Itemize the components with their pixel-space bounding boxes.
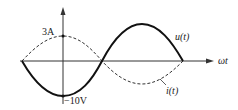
voltage-peak-label: −10V: [64, 95, 88, 106]
voltage-curve-label: u(t): [175, 31, 190, 43]
waveform-diagram: 3A −10V u(t) i(t) ωt: [0, 0, 238, 110]
current-peak-label: 3A: [42, 26, 55, 37]
current-peak-marker: [61, 34, 64, 37]
x-axis-arrow-icon: [206, 59, 214, 64]
current-curve-label: i(t): [166, 85, 179, 97]
x-axis-label: ωt: [218, 55, 228, 66]
y-axis-arrow-icon: [61, 7, 66, 15]
